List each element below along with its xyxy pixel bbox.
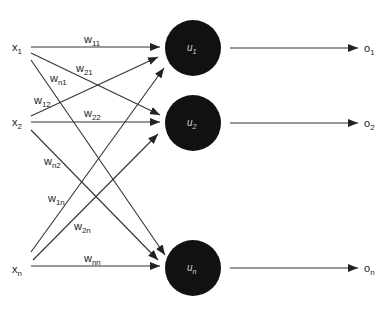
- outputs: o1o2on: [230, 42, 375, 277]
- output-label-o2: o2: [364, 117, 375, 132]
- input-label-x2: x2: [12, 116, 22, 131]
- input-label-xn: xn: [12, 263, 22, 278]
- output-label-o1: o1: [364, 42, 375, 57]
- weight-label-w11: w11: [83, 33, 101, 48]
- weight-label-wnn: wnn: [83, 252, 101, 267]
- input-label-x1: x1: [12, 41, 23, 56]
- weight-label-w12: w12: [33, 94, 51, 109]
- neurons: u1u2un: [165, 20, 221, 296]
- weight-label-w2n: w2n: [73, 220, 91, 235]
- inputs: x1x2xn: [12, 41, 23, 278]
- weight-label-w21: w21: [75, 62, 93, 77]
- weight-label-wn1: wn1: [49, 72, 67, 87]
- weight-label-w22: w22: [83, 107, 101, 122]
- neural-network-diagram: w11w21wn1w12w22wn2w1nw2nwnn u1u2un x1x2x…: [0, 0, 392, 310]
- weight-label-w1n: w1n: [47, 192, 65, 207]
- output-label-on: on: [364, 262, 375, 277]
- weight-connections: w11w21wn1w12w22wn2w1nw2nwnn: [31, 33, 165, 267]
